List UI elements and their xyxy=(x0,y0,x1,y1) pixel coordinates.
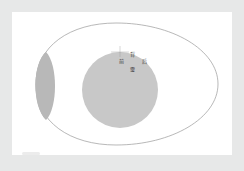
annotation-label-right: 后 xyxy=(142,59,147,64)
content-panel: 背 前 后 靈 xyxy=(12,12,232,155)
page-margin-top xyxy=(0,0,244,12)
page-margin-left xyxy=(0,0,12,171)
page-margin-right xyxy=(232,0,244,171)
eye-cross-section-diagram xyxy=(12,12,232,155)
annotation-label-left: 前 xyxy=(119,59,124,64)
figure-root: 背 前 后 靈 xyxy=(0,0,244,171)
page-artifact-smudge xyxy=(22,152,40,155)
annotation-label-center: 靈 xyxy=(130,67,135,72)
page-margin-bottom xyxy=(0,155,244,171)
annotation-label-top: 背 xyxy=(130,52,135,57)
